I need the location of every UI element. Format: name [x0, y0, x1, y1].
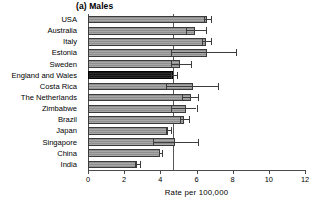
bar: [88, 60, 180, 68]
plot-area: USAAustraliaItalyEstoniaSwedenEngland an…: [88, 14, 305, 170]
error-bar-cap-low: [171, 49, 172, 56]
x-axis-tick: [88, 170, 89, 174]
error-bar-cap-low: [182, 94, 183, 101]
y-axis-category-label: Singapore: [0, 137, 77, 148]
error-bar: [166, 86, 218, 87]
error-bar-cap-high: [189, 116, 190, 123]
y-axis-category-label: India: [0, 159, 77, 170]
y-axis-category-label: China: [0, 148, 77, 159]
x-axis-tick-label: 12: [301, 175, 309, 184]
error-bar: [171, 64, 191, 65]
error-bar-cap-high: [236, 49, 237, 56]
y-axis-category-label: England and Wales: [0, 70, 77, 81]
y-axis-category-label: Estonia: [0, 47, 77, 58]
error-bar: [204, 19, 211, 20]
bar-row: Japan: [88, 125, 305, 136]
bar: [88, 16, 207, 24]
error-bar-cap-low: [159, 150, 160, 157]
bar: [88, 94, 191, 102]
error-bar-cap-high: [191, 61, 192, 68]
error-bar-cap-high: [198, 94, 199, 101]
error-bar: [153, 142, 198, 143]
error-bar-cap-low: [186, 27, 187, 34]
error-bar-cap-low: [202, 38, 203, 45]
bar-row: England and Wales: [88, 70, 305, 81]
bar-row: Australia: [88, 25, 305, 36]
x-axis-tick: [160, 170, 161, 174]
y-axis-category-label: Costa Rica: [0, 81, 77, 92]
bar-row: Costa Rica: [88, 81, 305, 92]
error-bar-cap-low: [171, 61, 172, 68]
bar: [88, 161, 137, 169]
error-bar-cap-high: [197, 105, 198, 112]
error-bar-cap-high: [162, 150, 163, 157]
bar-row: Brazil: [88, 114, 305, 125]
error-bar-cap-high: [140, 161, 141, 168]
bar-row: USA: [88, 14, 305, 25]
error-bar: [171, 52, 236, 53]
error-bar-cap-high: [211, 38, 212, 45]
error-bar: [180, 119, 189, 120]
error-bar-cap-high: [198, 139, 199, 146]
error-bar-cap-high: [218, 83, 219, 90]
error-bar: [171, 108, 196, 109]
x-axis-tick-label: 4: [158, 175, 162, 184]
x-axis-tick-label: 0: [86, 175, 90, 184]
x-axis-tick-label: 6: [194, 175, 198, 184]
y-axis-category-label: Sweden: [0, 59, 77, 70]
error-bar-cap-high: [177, 72, 178, 79]
bar: [88, 149, 160, 157]
bar: [88, 38, 206, 46]
x-axis-tick-label: 10: [265, 175, 273, 184]
x-axis-label-text: Rate per 100,000: [85, 188, 228, 197]
error-bar-cap-low: [171, 105, 172, 112]
bar: [88, 116, 184, 124]
error-bar-cap-low: [135, 161, 136, 168]
error-bar-cap-low: [153, 139, 154, 146]
x-axis-tick-label: 8: [231, 175, 235, 184]
y-axis-category-label: Italy: [0, 36, 77, 47]
error-bar-cap-high: [211, 16, 212, 23]
bar-row: The Netherlands: [88, 92, 305, 103]
error-bar: [186, 30, 206, 31]
bar-row: Italy: [88, 36, 305, 47]
x-axis-tick: [197, 170, 198, 174]
error-bar: [202, 41, 211, 42]
error-bar-cap-high: [206, 27, 207, 34]
bar-highlight: [88, 71, 173, 79]
y-axis-category-label: The Netherlands: [0, 92, 77, 103]
x-axis-tick: [233, 170, 234, 174]
y-axis-category-label: Japan: [0, 125, 77, 136]
y-axis-category-label: USA: [0, 14, 77, 25]
bar: [88, 27, 195, 35]
bar: [88, 127, 168, 135]
x-axis-tick: [124, 170, 125, 174]
x-axis-tick-label: 2: [122, 175, 126, 184]
bar-row: Zimbabwe: [88, 103, 305, 114]
bar-row: Sweden: [88, 59, 305, 70]
bar-row: India: [88, 159, 305, 170]
bar-row: China: [88, 148, 305, 159]
error-bar-cap-low: [171, 72, 172, 79]
bar-row: Singapore: [88, 137, 305, 148]
x-axis-label: Rate per 100,000: [0, 188, 313, 197]
error-bar-cap-high: [171, 127, 172, 134]
error-bar-cap-low: [166, 83, 167, 90]
y-axis-category-label: Zimbabwe: [0, 103, 77, 114]
y-axis-category-label: Brazil: [0, 114, 77, 125]
x-axis-tick: [269, 170, 270, 174]
error-bar: [182, 97, 198, 98]
error-bar-cap-low: [180, 116, 181, 123]
error-bar-cap-low: [166, 127, 167, 134]
error-bar-cap-low: [204, 16, 205, 23]
x-axis-tick: [305, 170, 306, 174]
bar-row: Estonia: [88, 47, 305, 58]
y-axis-category-label: Australia: [0, 25, 77, 36]
chart-figure: (a) Males USAAustraliaItalyEstoniaSweden…: [0, 0, 313, 205]
panel-title: (a) Males: [76, 1, 113, 11]
